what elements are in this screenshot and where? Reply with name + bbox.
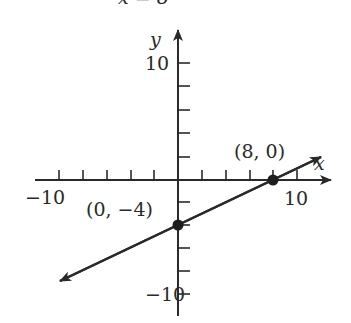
header-fragment: x = 8 bbox=[118, 0, 169, 8]
point-x-intercept bbox=[268, 175, 279, 186]
y-axis-label: y bbox=[149, 28, 161, 50]
x-axis-label: x bbox=[314, 152, 325, 174]
y-tick-label-10: 10 bbox=[145, 52, 169, 74]
x-tick-label-neg10: −10 bbox=[25, 186, 65, 208]
point-label-y-intercept: (0, −4) bbox=[86, 198, 153, 220]
point-label-x-intercept: (8, 0) bbox=[234, 140, 285, 162]
y-ticks bbox=[178, 63, 190, 294]
y-tick-label-neg10: −10 bbox=[145, 283, 185, 305]
point-y-intercept bbox=[173, 220, 184, 231]
x-tick-label-10: 10 bbox=[284, 187, 308, 209]
coordinate-plane: x = 8 y x 10 −10 −10 10 (0, − bbox=[0, 0, 351, 323]
